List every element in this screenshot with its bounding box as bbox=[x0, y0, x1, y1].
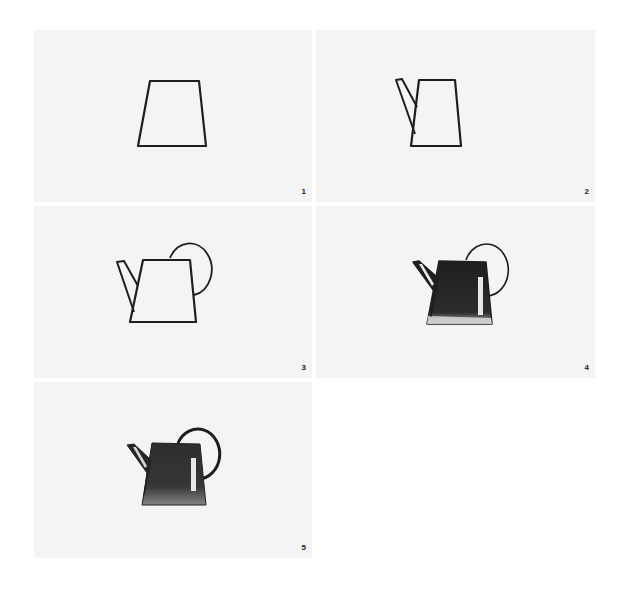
teapot-body-spout-drawing bbox=[316, 30, 595, 202]
step-panel-5: 5 bbox=[34, 382, 312, 558]
step-number: 2 bbox=[585, 187, 589, 196]
step-number: 5 bbox=[302, 543, 306, 552]
teapot-shaded-drawing bbox=[316, 206, 595, 378]
step-panel-1: 1 bbox=[34, 30, 312, 202]
step-number: 3 bbox=[302, 363, 306, 372]
step-number: 1 bbox=[302, 187, 306, 196]
teapot-body-spout-handle-drawing bbox=[34, 206, 312, 378]
step-panel-2: 2 bbox=[316, 30, 595, 202]
teapot-body-outline-drawing bbox=[34, 30, 312, 202]
step-number: 4 bbox=[585, 363, 589, 372]
teapot-finished-drawing bbox=[34, 382, 312, 558]
step-panel-4: 4 bbox=[316, 206, 595, 378]
step-panel-3: 3 bbox=[34, 206, 312, 378]
